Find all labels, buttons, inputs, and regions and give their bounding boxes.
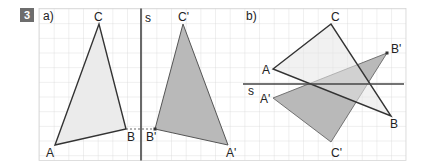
part-b-label-B-prime: B' <box>391 42 401 56</box>
part-b-point-B'-marker <box>386 52 389 55</box>
part-a-label-A: A <box>46 146 54 160</box>
part-b-label-A-prime: A' <box>260 92 270 106</box>
reflection-diagram: a) s C A B C' B' A' b) s C A B B' A' C' <box>0 0 424 167</box>
part-b-label-C-prime: C' <box>331 146 342 160</box>
part-a-label-B-prime: B' <box>146 130 156 144</box>
part-b-axis-label: s <box>248 84 254 98</box>
part-b-label-B: B <box>390 117 398 131</box>
part-a-label: a) <box>43 9 54 23</box>
part-a-axis-label: s <box>145 11 151 25</box>
part-a-label-C-prime: C' <box>178 10 189 24</box>
part-a-label-A-prime: A' <box>226 146 236 160</box>
part-a-label-C: C <box>94 10 103 24</box>
part-a-label-B: B <box>127 130 135 144</box>
part-b-label-A: A <box>262 63 270 77</box>
part-b-label: b) <box>246 9 257 23</box>
part-b-label-C: C <box>331 10 340 24</box>
